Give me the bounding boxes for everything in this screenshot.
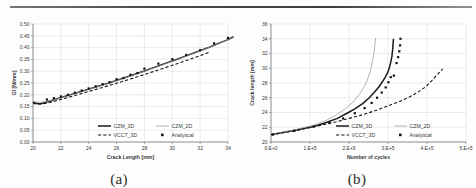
y-tick-label: 26	[262, 95, 268, 101]
legend-label-analytical: Analytical	[172, 132, 194, 138]
y-tick-label: 36	[262, 21, 268, 27]
data-marker	[395, 62, 397, 64]
data-marker	[387, 81, 389, 83]
legend-label-analytical: Analytical	[410, 132, 432, 138]
data-marker	[213, 42, 215, 44]
y-tick-label: 0.20	[20, 92, 30, 98]
data-marker	[185, 54, 187, 56]
x-tick-label: 0.E+0	[264, 145, 277, 151]
data-marker	[381, 91, 383, 93]
x-tick-label: 34	[225, 145, 231, 151]
y-tick-label: 30	[262, 65, 268, 71]
data-marker	[53, 97, 55, 99]
x-tick-label: 28	[142, 145, 148, 151]
y-tick-label: 0.45	[20, 33, 30, 39]
x-tick-label: 5.E+5	[459, 145, 472, 151]
y-tick-label: 22	[262, 124, 268, 130]
y-tick-label: 0.25	[20, 80, 30, 86]
data-marker	[227, 37, 229, 39]
subfigure-label-b: (b)	[238, 171, 476, 188]
data-marker	[398, 50, 400, 52]
y-tick-label: 0.40	[20, 44, 30, 50]
data-marker	[371, 102, 373, 104]
data-marker	[328, 122, 330, 124]
y-tick-label: 20	[262, 139, 268, 145]
y-tick-label: 28	[262, 80, 268, 86]
data-marker	[67, 94, 69, 96]
x-tick-label: 26	[114, 145, 120, 151]
y-tick-label: 0.30	[20, 68, 30, 74]
data-marker	[397, 56, 399, 58]
scan-artifact-line	[10, 6, 472, 8]
data-marker	[81, 89, 83, 91]
data-marker	[293, 130, 295, 132]
x-tick-label: 1.E+5	[303, 145, 316, 151]
legend-label-czm_2d: CZM_2D	[172, 123, 193, 129]
x-tick-label: 3.E+5	[381, 145, 394, 151]
y-tick-label: 0.35	[20, 56, 30, 62]
legend-label-czm_3d: CZM_3D	[352, 123, 373, 129]
y-tick-label: 0.00	[20, 139, 30, 145]
y-axis-title: Crack length [mm]	[249, 60, 255, 106]
subfigure-label-a: (a)	[0, 171, 238, 188]
data-marker	[364, 107, 366, 109]
data-marker	[88, 87, 90, 89]
data-marker	[129, 74, 131, 76]
x-tick-label: 4.E+5	[420, 145, 433, 151]
y-tick-label: 32	[262, 50, 268, 56]
chart-panel-b: 2022242628303234360.E+01.E+52.E+53.E+54.…	[238, 14, 476, 188]
data-marker	[399, 38, 401, 40]
data-marker	[136, 72, 138, 74]
data-marker	[342, 117, 344, 119]
x-tick-label: 2.E+5	[342, 145, 355, 151]
data-marker	[60, 95, 62, 97]
y-tick-label: 0.05	[20, 127, 30, 133]
data-marker	[272, 134, 274, 136]
y-tick-label: 24	[262, 109, 268, 115]
figure-root: 0.000.050.100.150.200.250.300.350.400.45…	[0, 0, 476, 188]
legend-swatch-analytical	[161, 134, 164, 137]
chart-b-canvas: 2022242628303234360.E+01.E+52.E+53.E+54.…	[238, 14, 476, 172]
data-marker	[122, 77, 124, 79]
data-marker	[393, 75, 395, 77]
data-marker	[385, 86, 387, 88]
x-axis-title: Number of cycles	[347, 154, 390, 160]
chart-a-canvas: 0.000.050.100.150.200.250.300.350.400.45…	[0, 14, 238, 172]
legend-label-czm_2d: CZM_2D	[410, 123, 431, 129]
x-tick-label: 32	[197, 145, 203, 151]
data-marker	[115, 78, 117, 80]
y-axis-title: GI [N/mm]	[11, 70, 17, 95]
y-tick-label: 34	[262, 36, 268, 42]
data-marker	[313, 125, 315, 127]
chart-panel-a: 0.000.050.100.150.200.250.300.350.400.45…	[0, 14, 238, 188]
y-tick-label: 0.15	[20, 103, 30, 109]
legend-label-vcct_3d: VCCT_3D	[352, 132, 376, 138]
data-marker	[157, 63, 159, 65]
data-marker	[171, 58, 173, 60]
legend-label-vcct_3d: VCCT_3D	[114, 132, 138, 138]
data-marker	[74, 92, 76, 94]
x-tick-label: 30	[170, 145, 176, 151]
data-marker	[95, 85, 97, 87]
x-tick-label: 22	[58, 145, 64, 151]
data-marker	[109, 81, 111, 83]
y-tick-label: 0.50	[20, 21, 30, 27]
data-marker	[199, 49, 201, 51]
data-marker	[399, 44, 401, 46]
legend-label-czm_3d: CZM_3D	[114, 123, 135, 129]
x-tick-label: 20	[30, 145, 36, 151]
data-marker	[390, 76, 392, 78]
data-marker	[102, 83, 104, 85]
data-marker	[354, 112, 356, 114]
data-marker	[143, 68, 145, 70]
x-tick-label: 24	[86, 145, 92, 151]
data-marker	[376, 97, 378, 99]
legend-swatch-analytical	[399, 134, 402, 137]
x-axis-title: Crack Length [mm]	[107, 154, 155, 160]
y-tick-label: 0.10	[20, 115, 30, 121]
data-marker	[46, 98, 48, 100]
